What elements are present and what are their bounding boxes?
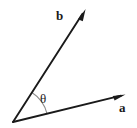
vector-a-label: a <box>119 101 126 114</box>
arrowhead-icon-b <box>78 9 86 21</box>
vector-angle-diagram: b a θ <box>0 0 137 128</box>
vector-b-label: b <box>56 9 63 22</box>
vector-b-line <box>13 14 83 122</box>
vector-diagram-svg <box>0 0 137 128</box>
vector-a-line <box>13 96 121 122</box>
angle-theta-label: θ <box>40 92 46 105</box>
